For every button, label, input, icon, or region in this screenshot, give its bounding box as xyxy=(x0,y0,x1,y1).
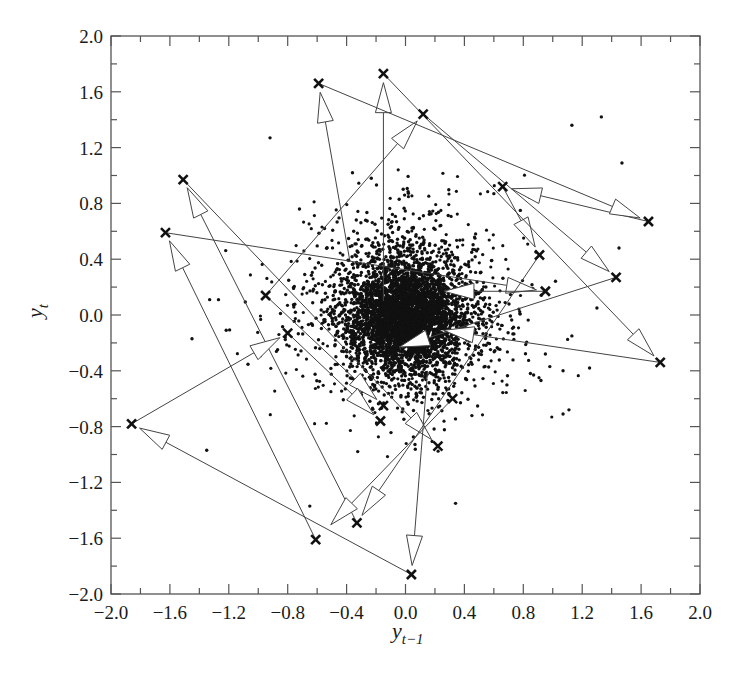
plot-area: −2.0−1.6−1.2−0.8−0.40.00.40.81.21.62.0 2… xyxy=(0,0,750,682)
y-tick-label: 1.2 xyxy=(79,138,103,159)
y-tick-label: 0.0 xyxy=(79,305,103,326)
x-tick-label: −2.0 xyxy=(94,602,128,623)
x-tick-label: 1.6 xyxy=(629,602,653,623)
lag-scatter-chart: −2.0−1.6−1.2−0.8−0.40.00.40.81.21.62.0 2… xyxy=(0,0,750,682)
y-tick-label: 0.8 xyxy=(79,193,103,214)
x-tick-label: −1.2 xyxy=(212,602,246,623)
x-tick-label: 0.8 xyxy=(511,602,535,623)
x-tick-label: −0.8 xyxy=(270,602,304,623)
x-tick-label: 1.2 xyxy=(570,602,594,623)
y-tick-label: 0.4 xyxy=(79,249,103,270)
x-tick-label: 2.0 xyxy=(688,602,712,623)
x-tick-label: −1.6 xyxy=(153,602,187,623)
y-tick-label: −1.2 xyxy=(69,472,103,493)
y-axis-label: yt xyxy=(22,303,51,320)
y-tick-label: 1.6 xyxy=(79,82,103,103)
y-tick-label: −1.6 xyxy=(69,528,103,549)
x-tick-label: 0.4 xyxy=(453,602,477,623)
y-tick-label: −0.8 xyxy=(69,417,103,438)
y-tick-labels: 2.01.61.20.80.40.0−0.4−0.8−1.2−1.6−2.0 xyxy=(69,26,104,605)
x-tick-label: −0.4 xyxy=(329,602,364,623)
y-tick-label: −2.0 xyxy=(69,584,103,605)
x-tick-labels: −2.0−1.6−1.2−0.8−0.40.00.40.81.21.62.0 xyxy=(94,602,712,623)
y-tick-label: 2.0 xyxy=(79,26,103,47)
y-tick-label: −0.4 xyxy=(69,361,104,382)
